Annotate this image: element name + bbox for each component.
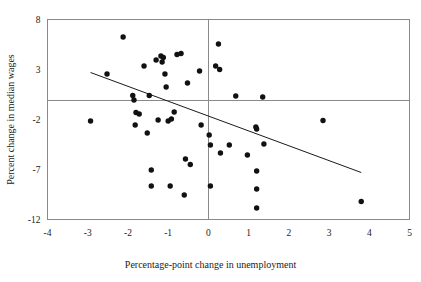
y-tick-label: 8: [36, 15, 41, 25]
y-tick-label: -7: [33, 165, 41, 175]
trend-line: [91, 73, 362, 173]
data-point-marker: [161, 55, 166, 60]
x-tick-label: 0: [206, 228, 211, 238]
data-point-marker: [182, 192, 187, 197]
y-tick-label: 3: [36, 65, 41, 75]
y-tick-label: -2: [33, 115, 41, 125]
data-point-marker: [188, 162, 193, 167]
data-point-marker: [88, 118, 93, 123]
data-point-marker: [145, 130, 150, 135]
plot-frame: [48, 20, 410, 220]
data-point-marker: [163, 84, 168, 89]
data-point-marker: [132, 122, 137, 127]
data-point-marker: [216, 41, 221, 46]
plot-border: [48, 20, 410, 220]
x-tick-label: -2: [124, 228, 132, 238]
data-point-marker: [320, 118, 325, 123]
data-point-marker: [206, 132, 211, 137]
data-point-marker: [254, 186, 259, 191]
data-point-marker: [104, 71, 109, 76]
y-tick-label: -12: [28, 215, 41, 225]
x-tick-label: 2: [286, 228, 291, 238]
data-point-marker: [359, 199, 364, 204]
data-point-marker: [153, 57, 158, 62]
x-tick-label: -3: [84, 228, 92, 238]
x-axis-tick-labels: -4-3-2-1012345: [44, 228, 413, 238]
data-point-marker: [155, 117, 160, 122]
regression-trend-line: [91, 73, 362, 173]
x-tick-label: 3: [327, 228, 332, 238]
data-point-marker: [254, 126, 259, 131]
x-tick-label: -1: [164, 228, 172, 238]
data-point-marker: [183, 156, 188, 161]
data-point-marker: [227, 142, 232, 147]
data-point-marker: [162, 71, 167, 76]
data-point-marker: [261, 141, 266, 146]
data-point-marker: [218, 150, 223, 155]
data-point-marker: [131, 97, 136, 102]
data-point-marker: [120, 34, 125, 39]
data-point-marker: [149, 183, 154, 188]
data-point-marker: [185, 80, 190, 85]
reference-lines: [48, 20, 410, 220]
data-point-marker: [141, 63, 146, 68]
data-point-marker: [137, 111, 142, 116]
data-point-marker: [245, 152, 250, 157]
data-point-marker: [172, 109, 177, 114]
y-axis-title: Percent change in median wages: [5, 54, 16, 185]
data-point-marker: [260, 94, 265, 99]
x-axis-title: Percentage-point change in unemployment: [125, 259, 297, 270]
x-tick-label: 5: [407, 228, 412, 238]
data-point-marker: [254, 168, 259, 173]
data-point-marker: [178, 51, 183, 56]
data-point-marker: [198, 122, 203, 127]
x-tick-label: 4: [367, 228, 372, 238]
data-point-marker: [197, 68, 202, 73]
data-point-marker: [217, 67, 222, 72]
data-point-marker: [208, 142, 213, 147]
chart-canvas: -4-3-2-1012345 -12-7-238 Percentage-poin…: [0, 0, 421, 282]
data-point-marker: [169, 116, 174, 121]
x-tick-label: -4: [44, 228, 52, 238]
data-point-marker: [233, 93, 238, 98]
scatter-plot-figure: -4-3-2-1012345 -12-7-238 Percentage-poin…: [0, 0, 421, 282]
data-point-marker: [208, 183, 213, 188]
x-tick-label: 1: [246, 228, 251, 238]
data-point-marker: [147, 93, 152, 98]
data-point-marker: [167, 183, 172, 188]
data-point-marker: [254, 205, 259, 210]
y-axis-tick-labels: -12-7-238: [28, 15, 41, 225]
data-point-marker: [149, 167, 154, 172]
